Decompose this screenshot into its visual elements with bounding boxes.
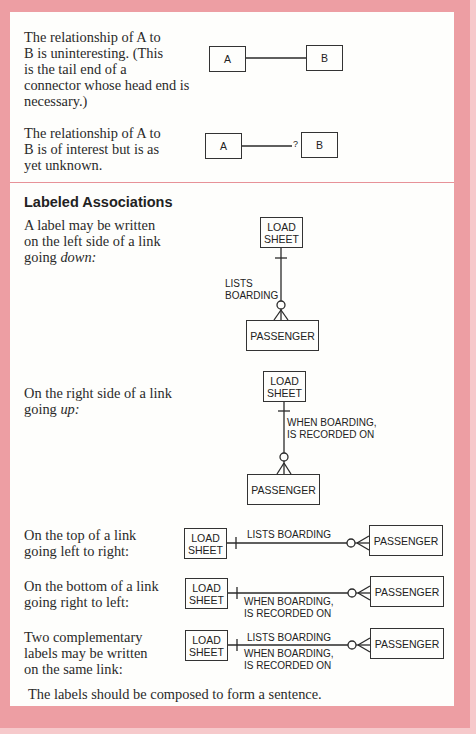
crows-foot-icon xyxy=(274,310,281,320)
zero-circle-icon xyxy=(347,539,355,547)
connector-lines xyxy=(10,12,454,706)
zero-circle-icon xyxy=(277,301,285,309)
zero-circle-icon xyxy=(348,589,356,597)
crows-foot-icon xyxy=(357,536,369,543)
page-edge-bottom xyxy=(0,728,476,734)
page-edge xyxy=(470,0,476,734)
crows-foot-icon xyxy=(277,463,284,474)
crows-foot-icon xyxy=(358,638,370,645)
crows-foot-icon xyxy=(358,586,370,593)
content-panel: The relationship of A to B is uninterest… xyxy=(10,12,454,706)
zero-circle-icon xyxy=(348,641,356,649)
zero-circle-icon xyxy=(280,453,288,461)
